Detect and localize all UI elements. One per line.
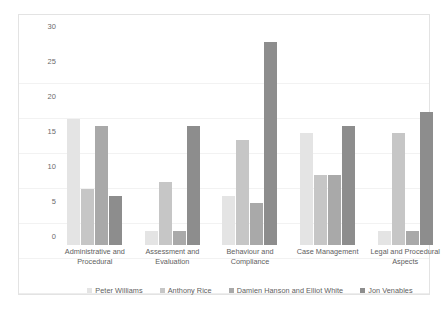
bar (328, 175, 341, 245)
legend-label: Jon Venables (368, 286, 412, 295)
y-axis-tick-label: 15 (47, 127, 56, 136)
legend-item[interactable]: Jon Venables (360, 286, 412, 295)
plot-area (56, 35, 444, 245)
bar (187, 126, 200, 245)
bar-group (134, 35, 212, 245)
legend-swatch-icon (87, 288, 92, 293)
bar-group (289, 35, 367, 245)
bar-group (366, 35, 444, 245)
legend-item[interactable]: Peter Williams (87, 286, 142, 295)
bar (264, 42, 277, 245)
x-axis-category-label: Behaviour and Compliance (211, 247, 289, 266)
bar (145, 231, 158, 245)
legend-item[interactable]: Damien Hanson and Elliot White (229, 286, 344, 295)
bar (236, 140, 249, 245)
x-axis-category-label: Case Management (289, 247, 367, 266)
bar-group (211, 35, 289, 245)
legend-label: Anthony Rice (168, 286, 212, 295)
x-axis-category-label: Administrative and Procedural (56, 247, 134, 266)
bar (342, 126, 355, 245)
y-axis-tick-label: 25 (47, 57, 56, 66)
y-axis-tick-label: 30 (47, 22, 56, 31)
chart-frame: 051015202530 Administrative and Procedur… (18, 14, 430, 295)
bar (222, 196, 235, 245)
legend-swatch-icon (360, 288, 365, 293)
legend-label: Peter Williams (95, 286, 142, 295)
bar (159, 182, 172, 245)
bar (300, 133, 313, 245)
bar (173, 231, 186, 245)
legend-item[interactable]: Anthony Rice (160, 286, 212, 295)
bar (95, 126, 108, 245)
bar (109, 196, 122, 245)
bar (420, 112, 433, 245)
chart-legend: Peter WilliamsAnthony RiceDamien Hanson … (56, 286, 444, 295)
x-axis-category-label: Legal and Procedural Aspects (366, 247, 444, 266)
x-axis-category-label: Assessment and Evaluation (134, 247, 212, 266)
bar-group (56, 35, 134, 245)
bar (406, 231, 419, 245)
x-axis-labels: Administrative and ProceduralAssessment … (56, 247, 444, 266)
bar-chart: 051015202530 Administrative and Procedur… (0, 0, 447, 309)
y-axis-tick-label: 20 (47, 92, 56, 101)
bar (378, 231, 391, 245)
legend-swatch-icon (229, 288, 234, 293)
bar (314, 175, 327, 245)
bar (81, 189, 94, 245)
bars-layer (56, 35, 444, 245)
bar (392, 133, 405, 245)
bar (250, 203, 263, 245)
legend-label: Damien Hanson and Elliot White (237, 286, 344, 295)
legend-swatch-icon (160, 288, 165, 293)
y-axis-tick-label: 10 (47, 162, 56, 171)
bar (67, 119, 80, 245)
